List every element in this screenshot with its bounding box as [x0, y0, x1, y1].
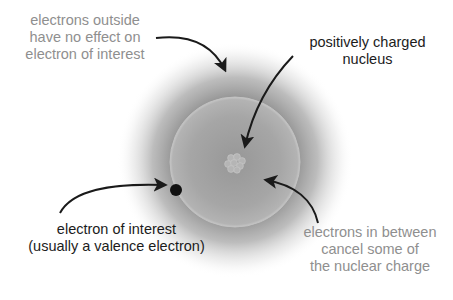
label-electrons-outside: electrons outside have no effect on elec… — [0, 12, 170, 63]
label-line: nucleus — [295, 51, 440, 68]
label-line: positively charged — [295, 34, 440, 51]
label-positively-charged-nucleus: positively charged nucleus — [295, 34, 440, 68]
electron-of-interest-dot — [170, 184, 182, 196]
label-line: cancel some of — [290, 241, 450, 258]
label-line: electron of interest — [14, 221, 219, 238]
label-line: electrons outside — [0, 12, 170, 29]
label-electron-of-interest: electron of interest (usually a valence … — [14, 221, 219, 255]
label-electrons-in-between: electrons in between cancel some of the … — [290, 224, 450, 275]
label-line: have no effect on — [0, 29, 170, 46]
label-line: (usually a valence electron) — [14, 238, 219, 255]
label-line: electrons in between — [290, 224, 450, 241]
label-line: electron of interest — [0, 46, 170, 63]
shielding-diagram: electrons outside have no effect on elec… — [0, 0, 453, 300]
label-line: the nuclear charge — [290, 258, 450, 275]
